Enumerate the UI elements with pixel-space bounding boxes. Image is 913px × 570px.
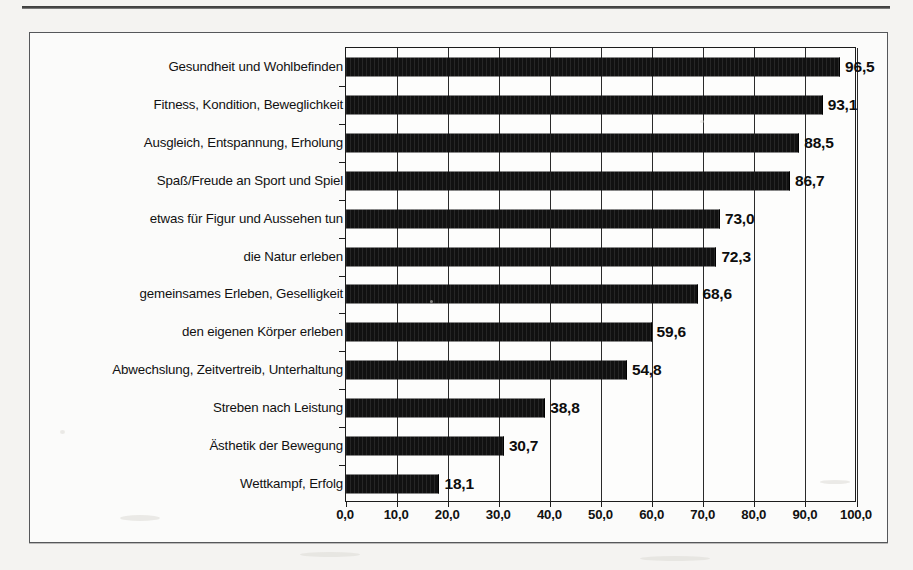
bar-row[interactable]: 86,7 (346, 162, 855, 200)
bar[interactable] (346, 323, 652, 342)
value-axis-tick-label: 100,0 (840, 507, 872, 522)
category-axis-tick (339, 465, 346, 466)
category-axis-tick (339, 276, 346, 277)
bar[interactable] (346, 285, 698, 304)
category-label: den eigenen Körper erleben (43, 324, 343, 339)
bar[interactable] (346, 247, 716, 266)
bar-row[interactable]: 93,1 (346, 86, 855, 124)
category-axis-tick (339, 427, 346, 428)
value-axis-tick-label: 10,0 (384, 507, 409, 522)
bar-row[interactable]: 68,6 (346, 276, 855, 314)
bar[interactable] (346, 209, 720, 228)
bar[interactable] (346, 57, 840, 76)
bar[interactable] (346, 475, 439, 494)
category-label: Ästhetik der Bewegung (43, 438, 343, 453)
bar-value-label: 59,6 (657, 323, 686, 341)
bar-value-label: 30,7 (509, 437, 538, 455)
category-axis-tick (339, 86, 346, 87)
value-axis-tick-label: 50,0 (588, 507, 613, 522)
bar-row[interactable]: 96,5 (346, 48, 855, 86)
bar[interactable] (346, 437, 504, 456)
category-axis-tick (339, 124, 346, 125)
category-label: Streben nach Leistung (43, 400, 343, 415)
bar-row[interactable]: 54,8 (346, 351, 855, 389)
bar-value-label: 54,8 (632, 361, 661, 379)
bar[interactable] (346, 399, 545, 418)
category-axis-tick (339, 238, 346, 239)
scan-artifact (640, 556, 710, 561)
value-axis-tick-label: 70,0 (690, 507, 715, 522)
bar-row[interactable]: 18,1 (346, 465, 855, 503)
category-axis-tick (339, 389, 346, 390)
bar-value-label: 88,5 (804, 134, 833, 152)
bar-row[interactable]: 88,5 (346, 124, 855, 162)
category-axis-tick (339, 200, 346, 201)
bar-row[interactable]: 38,8 (346, 389, 855, 427)
category-label: etwas für Figur und Aussehen tun (43, 210, 343, 225)
bar-value-label: 18,1 (444, 475, 473, 493)
scan-top-rule (22, 6, 890, 9)
bar-value-label: 93,1 (828, 96, 857, 114)
bar-row[interactable]: 72,3 (346, 238, 855, 276)
bar[interactable] (346, 361, 627, 380)
chart-frame: Gesundheit und WohlbefindenFitness, Kond… (29, 32, 888, 543)
gridline (857, 48, 858, 501)
value-axis-tick-label: 40,0 (537, 507, 562, 522)
value-axis-tick-label: 80,0 (741, 507, 766, 522)
bar-row[interactable]: 30,7 (346, 427, 855, 465)
value-axis-tick-label: 90,0 (792, 507, 817, 522)
scan-artifact (300, 552, 360, 557)
bar-value-label: 72,3 (721, 248, 750, 266)
category-label: Abwechslung, Zeitvertreib, Unterhaltung (43, 362, 343, 377)
value-axis-tick-label: 30,0 (486, 507, 511, 522)
bar[interactable] (346, 133, 799, 152)
bar-row[interactable]: 73,0 (346, 200, 855, 238)
category-axis-tick (339, 351, 346, 352)
category-axis-tick (339, 313, 346, 314)
category-axis-tick (339, 162, 346, 163)
category-label: Gesundheit und Wohlbefinden (43, 58, 343, 73)
bar-value-label: 86,7 (795, 172, 824, 190)
category-label: die Natur erleben (43, 248, 343, 263)
category-axis-labels: Gesundheit und WohlbefindenFitness, Kond… (35, 47, 343, 502)
category-label: Wettkampf, Erfolg (43, 476, 343, 491)
bar[interactable] (346, 171, 790, 190)
bar-value-label: 96,5 (845, 58, 874, 76)
bar-row[interactable]: 59,6 (346, 313, 855, 351)
plot-area: 96,593,188,586,773,072,368,659,654,838,8… (345, 47, 856, 502)
value-axis-labels: 0,010,020,030,040,050,060,070,080,090,01… (345, 507, 856, 533)
category-label: gemeinsames Erleben, Geselligkeit (43, 286, 343, 301)
value-axis-tick-label: 0,0 (336, 507, 354, 522)
category-label: Fitness, Kondition, Beweglichkeit (43, 96, 343, 111)
category-label: Spaß/Freude an Sport und Spiel (43, 172, 343, 187)
bar-value-label: 73,0 (725, 210, 754, 228)
bar-value-label: 68,6 (703, 285, 732, 303)
category-label: Ausgleich, Entspannung, Erholung (43, 134, 343, 149)
bar[interactable] (346, 95, 823, 114)
value-axis-tick-label: 20,0 (435, 507, 460, 522)
bar-value-label: 38,8 (550, 399, 579, 417)
value-axis-tick-label: 60,0 (639, 507, 664, 522)
